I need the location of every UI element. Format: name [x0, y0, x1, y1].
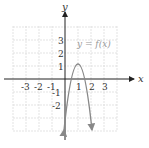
svg-text:-3: -3 [21, 82, 30, 92]
svg-text:-1: -1 [52, 88, 61, 98]
svg-text:2: 2 [58, 49, 64, 59]
svg-text:-2: -2 [34, 82, 43, 92]
function-label: y = f(x) [76, 39, 111, 49]
svg-text:1: 1 [58, 62, 64, 72]
y-tick-labels: 3 2 1 -1 -2 [52, 36, 64, 111]
svg-text:3: 3 [58, 36, 64, 46]
svg-text:1: 1 [76, 82, 82, 92]
graph: x y -3 -2 -1 1 2 3 3 2 1 -1 -2 y = f(x) [0, 0, 149, 148]
svg-text:3: 3 [102, 82, 108, 92]
svg-text:2: 2 [89, 82, 95, 92]
svg-text:-2: -2 [52, 101, 61, 111]
x-axis-label: x [138, 73, 144, 84]
y-axis-label: y [61, 1, 68, 12]
